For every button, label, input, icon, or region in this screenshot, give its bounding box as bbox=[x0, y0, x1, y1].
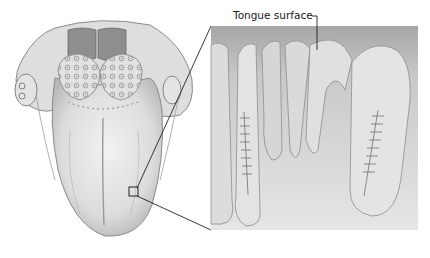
tongue-surface-label: Tongue surface bbox=[233, 9, 313, 21]
inset-panel bbox=[211, 26, 418, 230]
tongue-illustration bbox=[0, 0, 430, 258]
